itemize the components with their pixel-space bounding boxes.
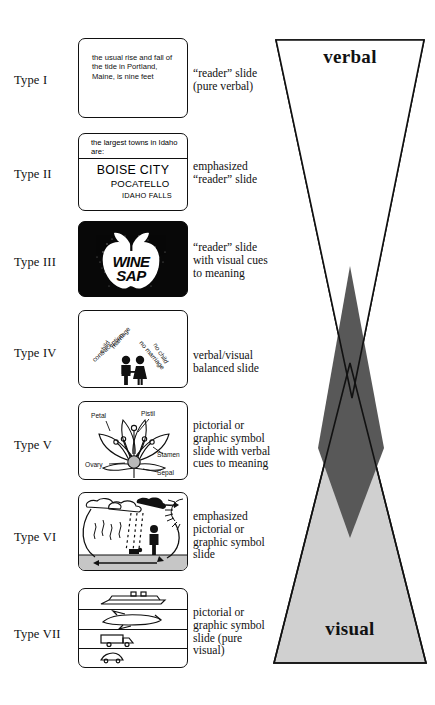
diagram-canvas: Type I the usual rise and fall of the ti… [0, 0, 435, 705]
slide-thumbnail-5[interactable]: Petal Pistil Stamen Ovary Sepal [78, 401, 188, 480]
slide-thumbnail-6[interactable] [78, 492, 188, 571]
description-3-text: “reader” slide with visual cues to meani… [193, 241, 268, 280]
slide-1-body-text: the usual rise and fall of the tide in P… [92, 53, 179, 81]
airplane-icon [79, 610, 188, 630]
truck-icon [79, 630, 188, 649]
description-6-text: emphasized pictorial or graphic symbol s… [193, 510, 265, 561]
type-label-6: Type VI [14, 530, 78, 545]
slide-thumbnail-7[interactable] [78, 588, 188, 668]
cone-label-verbal: verbal [266, 46, 434, 68]
slide-2-header-text: the largest towns in Idaho are: [91, 138, 181, 156]
cone-label-visual: visual [266, 618, 434, 640]
transport-band-airplane [79, 610, 187, 630]
slide-2-city-1: BOISE CITY [79, 163, 187, 177]
slide-2-city-3: IDAHO FALLS [79, 191, 187, 200]
water-cycle-icon [79, 493, 188, 571]
flower-label-sepal: Sepal [157, 469, 174, 476]
description-2-text: emphasized “reader” slide [193, 160, 257, 186]
type-label-3: Type III [14, 255, 78, 270]
description-1-text: “reader” slide (pure verbal) [193, 67, 257, 93]
slide-thumbnail-1[interactable]: the usual rise and fall of the tide in P… [78, 38, 188, 118]
transport-band-car [79, 649, 187, 667]
transport-band-ship [79, 589, 187, 610]
transport-band-truck [79, 630, 187, 649]
ship-icon [79, 589, 188, 610]
car-icon [79, 649, 188, 667]
slide-2-city-2: POCATELLO [79, 178, 187, 189]
verbal-visual-cone: verbal visual [266, 18, 434, 682]
flower-label-ovary: Ovary [85, 461, 103, 468]
cone-svg [266, 18, 434, 682]
type-label-4: Type IV [14, 346, 78, 361]
flower-label-pistil: Pistil [141, 410, 155, 417]
type-label-7: Type VII [14, 627, 78, 642]
flower-label-petal: Petal [91, 412, 106, 419]
description-5-text: pictorial or graphic symbol slide with v… [193, 419, 270, 470]
slide-2-header-band: the largest towns in Idaho are: [79, 134, 187, 159]
winesap-apple-icon: WINE SAP [79, 222, 188, 297]
flower-label-stamen: Stamen [157, 451, 180, 458]
slide-thumbnail-2[interactable]: the largest towns in Idaho are: BOISE CI… [78, 133, 188, 211]
couple-figure-icon [79, 311, 188, 388]
type-label-2: Type II [14, 167, 78, 182]
svg-text:SAP: SAP [116, 267, 147, 284]
slide-thumbnail-4[interactable]: contraception child marriage no marriage… [78, 310, 188, 388]
type-label-5: Type V [14, 438, 78, 453]
description-7-text: pictorial or graphic symbol slide (pure … [193, 606, 265, 657]
slide-thumbnail-3[interactable]: WINE SAP [78, 221, 188, 297]
description-4-text: verbal/visual balanced slide [193, 349, 259, 375]
type-label-1: Type I [14, 73, 78, 88]
